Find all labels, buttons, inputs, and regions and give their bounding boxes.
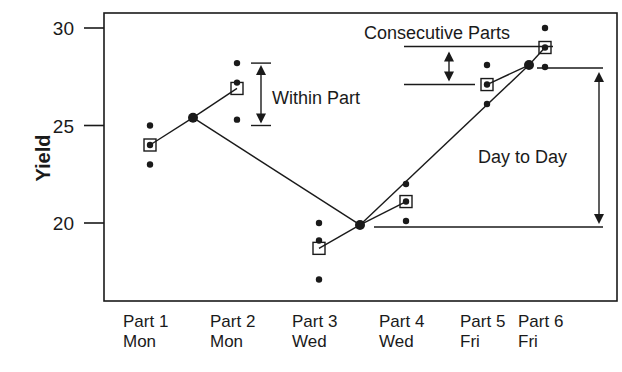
x-category-label: Part 6: [518, 312, 563, 331]
measurement-dot: [484, 101, 490, 107]
x-category-label: Part 5: [460, 312, 505, 331]
x-category-label: Part 4: [379, 312, 424, 331]
measurement-dot: [542, 64, 548, 70]
measurement-dot: [542, 25, 548, 31]
y-tick-label: 30: [53, 18, 74, 39]
consecutive-parts-arrow-arrowhead-up: [444, 52, 454, 62]
measurement-dot: [316, 220, 322, 226]
x-category-sublabel: Mon: [210, 332, 243, 351]
y-axis-label: Yield: [32, 134, 54, 181]
measurement-dot: [234, 116, 240, 122]
x-category-label: Part 2: [210, 312, 255, 331]
x-category-label: Part 1: [123, 312, 168, 331]
day-to-day-arrow-arrowhead-down: [594, 214, 604, 224]
day-mean-dot: [188, 113, 198, 123]
measurement-dot: [403, 198, 409, 204]
annotation-consecutive-parts: Consecutive Parts: [364, 23, 510, 43]
annotation-within-part: Within Part: [272, 88, 360, 108]
annotations: [251, 47, 604, 227]
x-category-sublabel: Fri: [460, 332, 480, 351]
day-mean-dot: [355, 220, 365, 230]
yield-variability-chart: 202530Part 1MonPart 2MonPart 3WedPart 4W…: [0, 0, 622, 372]
day-to-part-line: [360, 202, 406, 225]
x-category-sublabel: Wed: [292, 332, 327, 351]
consecutive-parts-arrow-arrowhead-down: [444, 72, 454, 82]
x-category-sublabel: Wed: [379, 332, 414, 351]
day-trend-line: [360, 65, 529, 225]
y-tick-label: 25: [53, 116, 74, 137]
within-part-arrow-arrowhead-down: [256, 114, 266, 124]
measurement-dot: [403, 181, 409, 187]
measurement-dot: [147, 142, 153, 148]
measurement-dot: [147, 161, 153, 167]
measurement-dot: [316, 276, 322, 282]
measurement-dot: [234, 60, 240, 66]
annotation-day-to-day: Day to Day: [478, 147, 567, 167]
x-category-sublabel: Fri: [518, 332, 538, 351]
day-mean-dot: [524, 60, 534, 70]
day-trend-line: [193, 118, 360, 225]
x-category-sublabel: Mon: [123, 332, 156, 351]
y-tick-label: 20: [53, 213, 74, 234]
within-part-arrow-arrowhead-up: [256, 65, 266, 75]
measurement-dot: [403, 218, 409, 224]
measurement-dot: [484, 62, 490, 68]
measurement-dot: [542, 44, 548, 50]
measurement-dot: [147, 122, 153, 128]
x-category-label: Part 3: [292, 312, 337, 331]
day-to-day-arrow-arrowhead-up: [594, 72, 604, 82]
chart-canvas: 202530Part 1MonPart 2MonPart 3WedPart 4W…: [0, 0, 622, 372]
measurement-dot: [484, 81, 490, 87]
